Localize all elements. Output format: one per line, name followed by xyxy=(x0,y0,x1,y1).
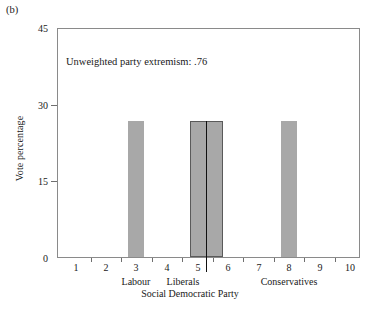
y-tick-label-30: 30 xyxy=(22,100,48,111)
x-tick-label-8: 8 xyxy=(279,262,299,273)
group-label-conservatives: Conservatives xyxy=(229,276,349,287)
group-label-liberals: Liberals xyxy=(123,276,243,287)
x-tick-mark-6 xyxy=(243,258,244,262)
bar-category-5 xyxy=(190,121,207,257)
bar-category-6 xyxy=(206,121,223,257)
y-tick-label-45: 45 xyxy=(22,23,48,34)
bar-category-3 xyxy=(128,121,144,257)
panel-label: (b) xyxy=(6,4,18,15)
figure-caption xyxy=(0,306,379,314)
x-tick-label-9: 9 xyxy=(310,262,330,273)
y-tick-label-0: 0 xyxy=(22,253,48,264)
x-tick-label-3: 3 xyxy=(126,262,146,273)
x-tick-mark-7 xyxy=(274,258,275,262)
x-tick-label-2: 2 xyxy=(96,262,116,273)
x-tick-mark-9 xyxy=(335,258,336,262)
x-tick-mark-5 xyxy=(213,258,214,262)
bar-category-8 xyxy=(281,121,297,257)
x-tick-label-1: 1 xyxy=(66,262,86,273)
x-tick-mark-1 xyxy=(91,258,92,262)
y-tick-label-15: 15 xyxy=(22,176,48,187)
x-tick-mark-8 xyxy=(304,258,305,262)
x-tick-mark-2 xyxy=(121,258,122,262)
x-tick-mark-3 xyxy=(152,258,153,262)
annotation-party-extremism: Unweighted party extremism: .76 xyxy=(66,56,207,67)
sdp-pointer-line xyxy=(206,121,207,272)
x-tick-label-6: 6 xyxy=(218,262,238,273)
figure-panel-b: (b) 0 15 30 45 Vote percentage Unweighte… xyxy=(0,0,379,314)
x-tick-label-5: 5 xyxy=(188,262,208,273)
sdp-caption: Social Democratic Party xyxy=(90,288,290,299)
x-tick-label-4: 4 xyxy=(157,262,177,273)
x-tick-label-7: 7 xyxy=(249,262,269,273)
x-tick-label-10: 10 xyxy=(340,262,360,273)
x-tick-mark-4 xyxy=(182,258,183,262)
y-axis-label: Vote percentage xyxy=(14,94,25,204)
